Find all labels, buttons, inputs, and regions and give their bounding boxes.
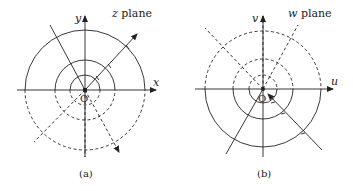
u-axis-label: u xyxy=(331,75,338,88)
y-axis-label: y xyxy=(74,12,82,25)
v-axis-label: v xyxy=(252,12,259,25)
x-axis-label: x xyxy=(153,76,160,89)
plane-label-b: w plane xyxy=(288,7,332,20)
ray-upper-left xyxy=(205,28,263,89)
origin-label: O xyxy=(80,93,88,104)
panel-b-w-plane xyxy=(195,16,333,157)
direction-tick xyxy=(271,102,305,134)
panel-a-z-plane xyxy=(17,16,156,157)
caption-a: (a) xyxy=(79,168,93,179)
ray-lower-left xyxy=(34,90,85,142)
plane-label-a: z plane xyxy=(111,7,152,20)
origin-point xyxy=(261,87,265,91)
ray-upper-right xyxy=(263,25,298,89)
conformal-map-diagram: y x O z plane (a) v u O w plane (b) xyxy=(0,0,353,191)
origin-label: O xyxy=(258,93,266,104)
caption-b: (b) xyxy=(257,168,271,179)
ray-upper-right xyxy=(85,34,137,90)
ray-lower-right xyxy=(268,94,322,150)
ray-upper-left xyxy=(50,25,85,90)
origin-point xyxy=(83,88,87,92)
direction-tick xyxy=(96,45,129,80)
